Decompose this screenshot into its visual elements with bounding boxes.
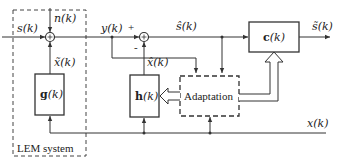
mic-signal-label: y(k) bbox=[100, 22, 122, 35]
plus-sign: + bbox=[128, 21, 134, 33]
svg-text:h(k): h(k) bbox=[135, 90, 158, 103]
svg-text:g(k): g(k) bbox=[40, 88, 63, 101]
output-signal-label: s̃(k) bbox=[312, 20, 333, 33]
noise-label: n(k) bbox=[54, 12, 76, 25]
input-signal-label: s(k) bbox=[17, 22, 38, 35]
lem-system-label: LEM system bbox=[17, 142, 74, 154]
minus-sign: - bbox=[134, 41, 138, 53]
adaptation-label: Adaptation bbox=[184, 90, 233, 102]
echo-label: x̃(k) bbox=[54, 56, 75, 69]
adaptive-echo-canceller-diagram: LEM system s(k) n(k) g(k) x̃(k) y(k) + -… bbox=[0, 0, 343, 161]
sum-junction-1 bbox=[46, 33, 55, 42]
error-signal-label: ŝ(k) bbox=[176, 20, 197, 33]
echo-estimate-label: x̂(k) bbox=[147, 56, 168, 69]
adaptation-to-h-arrow bbox=[160, 88, 180, 104]
sum-junction-2 bbox=[140, 33, 149, 42]
svg-text:c(k): c(k) bbox=[263, 31, 285, 44]
reference-signal-label: x(k) bbox=[307, 117, 328, 130]
adaptation-to-c-arrow bbox=[239, 52, 283, 101]
